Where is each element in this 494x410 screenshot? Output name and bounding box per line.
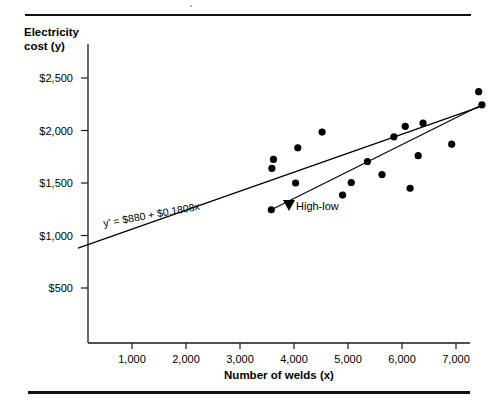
data-point [378, 171, 385, 178]
data-point [415, 152, 422, 159]
high-low-label: High-low [296, 200, 339, 212]
x-tick-label: 5,000 [334, 353, 362, 365]
data-point [348, 179, 355, 186]
data-point [390, 133, 397, 140]
y-axis-title-line2: cost (y) [24, 40, 65, 52]
high-low-line [271, 105, 482, 210]
x-tick-label: 3,000 [226, 353, 254, 365]
data-point [339, 191, 346, 198]
data-point [407, 185, 414, 192]
x-tick-label: 4,000 [280, 353, 308, 365]
y-tick-label: $2,000 [39, 125, 73, 137]
data-point [448, 141, 455, 148]
x-tick-label: 1,000 [118, 353, 146, 365]
y-tick-label: $1,000 [39, 230, 73, 242]
least-squares-line [78, 106, 482, 248]
data-point [268, 206, 275, 213]
data-point [419, 120, 426, 127]
x-axis-tick-labels: 1,0002,0003,0004,0005,0006,0007,000 [118, 353, 470, 365]
figure-container: $500$1,000$1,500$2,000$2,500 1,0002,0003… [0, 0, 494, 410]
x-tick-label: 6,000 [388, 353, 416, 365]
y-axis-ticks [81, 78, 88, 288]
data-point [270, 156, 277, 163]
x-tick-label: 7,000 [442, 353, 470, 365]
y-axis-title-line1: Electricity [24, 26, 80, 38]
data-point [318, 128, 325, 135]
data-point [268, 165, 275, 172]
data-point [475, 88, 482, 95]
x-tick-label: 2,000 [172, 353, 200, 365]
data-point [294, 144, 301, 151]
data-point [478, 101, 485, 108]
regression-equation-label: y' = $880 + $0.1808x [102, 200, 201, 229]
y-tick-label: $1,500 [39, 177, 73, 189]
regression-equation-group: y' = $880 + $0.1808x [102, 200, 201, 229]
x-axis-title: Number of welds (x) [224, 369, 334, 381]
data-point [364, 158, 371, 165]
y-axis-tick-labels: $500$1,000$1,500$2,000$2,500 [39, 72, 73, 294]
high-low-callout: High-low [283, 200, 339, 212]
high-low-arrow-icon [283, 200, 295, 211]
x-axis-ticks [132, 343, 456, 349]
data-points [268, 88, 486, 213]
data-point [292, 179, 299, 186]
data-point [402, 123, 409, 130]
y-tick-label: $500 [49, 282, 73, 294]
scatter-plot: $500$1,000$1,500$2,000$2,500 1,0002,0003… [0, 0, 494, 410]
y-tick-label: $2,500 [39, 72, 73, 84]
